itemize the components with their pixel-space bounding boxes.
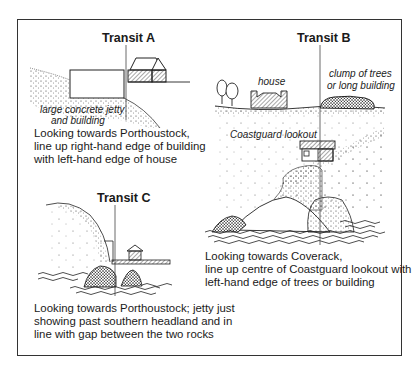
- house-a: [128, 58, 166, 82]
- caption-line: line up centre of Coastguard lookout wit…: [205, 263, 411, 276]
- transit-c-caption: Looking towards Porthoustock; jetty just…: [34, 302, 235, 341]
- trees-label-line1: clump of trees: [329, 68, 392, 79]
- transit-a-title: Transit A: [102, 31, 155, 45]
- jetty-label-line1: large concrete jetty: [40, 104, 125, 115]
- caption-line: left-hand edge of trees or building: [205, 276, 411, 289]
- caption-line: Looking towards Coverack,: [205, 250, 411, 263]
- transit-b-caption: Looking towards Coverack, line up centre…: [205, 250, 411, 289]
- rock-right: [121, 270, 142, 286]
- house-b: [251, 91, 287, 108]
- transit-a-caption: Looking towards Porthoustock, line up ri…: [34, 127, 206, 166]
- trees-clump: [320, 96, 374, 109]
- caption-line: line with gap between the two rocks: [34, 328, 235, 341]
- transit-c-drawing: [38, 203, 172, 296]
- rock-left: [84, 266, 116, 287]
- lookout-label: Coastguard lookout: [230, 129, 317, 140]
- house-label: house: [258, 76, 285, 87]
- trees-left: [217, 80, 238, 106]
- trees-label-line2: or long building: [327, 80, 395, 91]
- jetty-hut: [127, 245, 143, 260]
- caption-line: with left-hand edge of house: [34, 153, 206, 166]
- transit-b-title: Transit B: [297, 31, 351, 45]
- caption-line: line up right-hand edge of building: [34, 140, 206, 153]
- transit-c-title: Transit C: [97, 191, 151, 205]
- caption-line: Looking towards Porthoustock,: [34, 127, 206, 140]
- jetty-label-line2: and building: [51, 115, 105, 126]
- jetty: [112, 260, 170, 264]
- caption-line: showing past southern headland and in: [34, 315, 235, 328]
- jetty-building: [70, 70, 124, 98]
- coastguard-lookout: [300, 141, 335, 161]
- caption-line: Looking towards Porthoustock; jetty just: [34, 302, 235, 315]
